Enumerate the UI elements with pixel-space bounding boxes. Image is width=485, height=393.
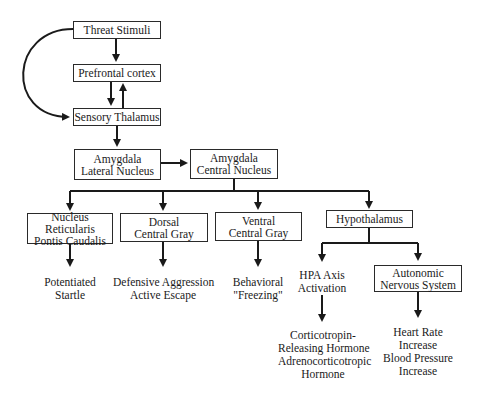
- node-label: Central Gray: [229, 227, 289, 239]
- outcome-potentiated-startle: Potentiated Startle: [30, 276, 110, 301]
- node-prefrontal-cortex: Prefrontal cortex: [73, 64, 161, 82]
- node-amygdala-central-nucleus: Amygdala Central Nucleus: [190, 149, 278, 179]
- node-label: Central Gray: [134, 228, 194, 240]
- node-label: Autonomic: [392, 267, 444, 279]
- node-label: Nervous System: [380, 279, 456, 291]
- node-label: Lateral Nucleus: [81, 165, 154, 177]
- outcome-cardiovascular: Heart Rate Increase Blood Pressure Incre…: [376, 326, 460, 377]
- node-label: Nucleus Reticularis: [28, 211, 112, 235]
- node-threat-stimuli: Threat Stimuli: [73, 21, 161, 39]
- outcome-hpa-axis-activation: HPA Axis Activation: [290, 269, 354, 294]
- node-label: Ventral: [242, 215, 275, 227]
- node-label: Threat Stimuli: [84, 24, 151, 36]
- node-label: Amygdala: [94, 153, 142, 165]
- node-label: Dorsal: [149, 216, 180, 228]
- outcome-hormones: Corticotropin- Releasing Hormone Adrenoc…: [278, 329, 368, 380]
- node-label: Amygdala: [210, 152, 258, 164]
- node-label: Pontis Caudalis: [34, 235, 106, 247]
- node-dorsal-central-gray: Dorsal Central Gray: [120, 213, 208, 242]
- outcome-defensive-aggression: Defensive Aggression Active Escape: [113, 276, 213, 301]
- node-label: Hypothalamus: [336, 213, 403, 225]
- node-amygdala-lateral-nucleus: Amygdala Lateral Nucleus: [74, 149, 161, 180]
- node-nucleus-reticularis-pontis-caudalis: Nucleus Reticularis Pontis Caudalis: [27, 213, 113, 244]
- node-hypothalamus: Hypothalamus: [326, 210, 413, 228]
- node-label: Central Nucleus: [197, 164, 271, 176]
- node-autonomic-nervous-system: Autonomic Nervous System: [374, 265, 462, 292]
- node-ventral-central-gray: Ventral Central Gray: [215, 212, 302, 241]
- outcome-behavioral-freezing: Behavioral "Freezing": [225, 276, 291, 301]
- node-sensory-thalamus: Sensory Thalamus: [73, 108, 161, 126]
- node-label: Prefrontal cortex: [78, 67, 156, 79]
- node-label: Sensory Thalamus: [74, 111, 159, 123]
